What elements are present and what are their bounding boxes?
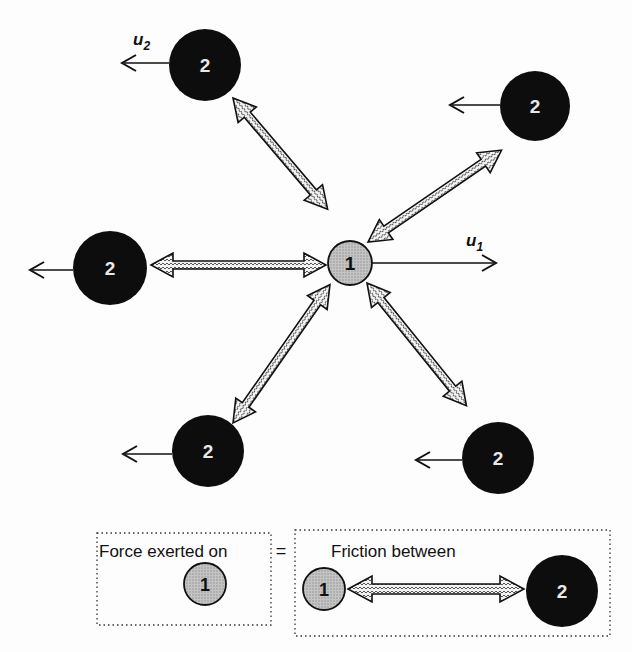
particle-2-left: 2 [73, 231, 147, 305]
velocity-arrow-bottom-left [123, 446, 172, 462]
svg-text:1: 1 [200, 575, 210, 595]
svg-text:2: 2 [493, 448, 504, 469]
friction-arrow-top-right [361, 140, 508, 252]
u1-label: u1 [466, 231, 483, 254]
legend-friction-text: Friction between [331, 542, 456, 561]
legend: Force exerted on = Friction between 1 1 … [97, 530, 610, 636]
svg-text:2: 2 [203, 441, 214, 462]
svg-text:2: 2 [530, 96, 541, 117]
velocity-arrow-u2 [122, 55, 169, 71]
legend-particle-1-right: 1 [303, 568, 345, 610]
particle-2-top-right: 2 [500, 71, 570, 141]
friction-arrow-bottom-left [223, 278, 340, 430]
u2-label: u2 [133, 30, 150, 53]
legend-particle-2: 2 [526, 555, 598, 627]
svg-text:1: 1 [345, 253, 356, 274]
particle-2-top-left: 2 [169, 29, 241, 101]
legend-force-text: Force exerted on [99, 542, 228, 561]
svg-text:2: 2 [557, 581, 568, 602]
svg-text:2: 2 [200, 55, 211, 76]
velocity-arrow-top-right [450, 97, 500, 113]
velocity-arrow-u1 [372, 255, 496, 271]
friction-arrow-top-left [224, 90, 337, 217]
friction-arrow-bottom-right [358, 275, 476, 413]
friction-arrow-left [151, 253, 326, 277]
particle-1-center: 1 [328, 241, 372, 285]
legend-particle-1-left: 1 [184, 563, 226, 605]
legend-friction-arrow [348, 576, 524, 602]
friction-diagram: u2 u1 2 2 2 2 2 1 Force exerted on = Fri… [0, 0, 632, 652]
particle-2-bottom-right: 2 [462, 422, 534, 494]
svg-text:1: 1 [319, 580, 329, 600]
velocity-arrow-left [30, 262, 73, 278]
particle-2-bottom-left: 2 [172, 415, 244, 487]
legend-equals: = [276, 541, 287, 561]
svg-text:2: 2 [105, 258, 116, 279]
velocity-arrow-bottom-right [416, 452, 462, 468]
